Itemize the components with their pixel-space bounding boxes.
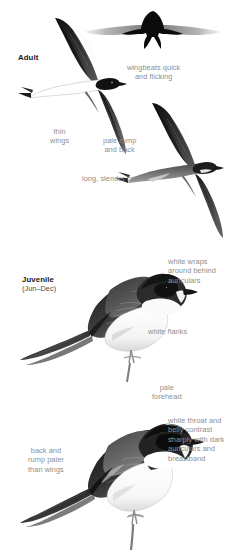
panel-juvenile: Juvenile (Jun–Dec) white wraps around be… [0,232,249,384]
annotation-back-and-rump: back and rump paler than wings [28,446,64,474]
panel-adult-flight: Adult wingbeats quick and flicking thin … [0,0,249,232]
age-label-adult: Adult [18,53,38,63]
juvenile-artwork [0,232,249,384]
age-sublabel-juvenile-months: (Jun–Dec) [22,284,56,293]
adult-upperside-in-flight [115,103,224,238]
annotation-pale-forehead: pale forehead [152,383,182,402]
adult-flight-artwork [0,0,249,232]
annotation-wingbeats: wingbeats quick and flicking [127,63,180,82]
panel-adult-perched: pale forehead white throat and belly con… [0,384,249,553]
annotation-white-throat: white throat and belly contrast sharply … [168,416,224,463]
adult-underside-in-flight [18,18,127,154]
annotation-long-slender-tail: long, slender tail [82,174,137,183]
field-guide-plate: Adult wingbeats quick and flicking thin … [0,0,249,553]
annotation-white-flanks: white flanks [148,327,187,336]
annotation-thin-wings: thin wings [50,127,69,146]
annotation-pale-rump: pale rump and back [103,136,136,155]
annotation-white-wraps: white wraps around behind auriculars [168,257,216,285]
flight-silhouette-head-on [85,11,220,49]
